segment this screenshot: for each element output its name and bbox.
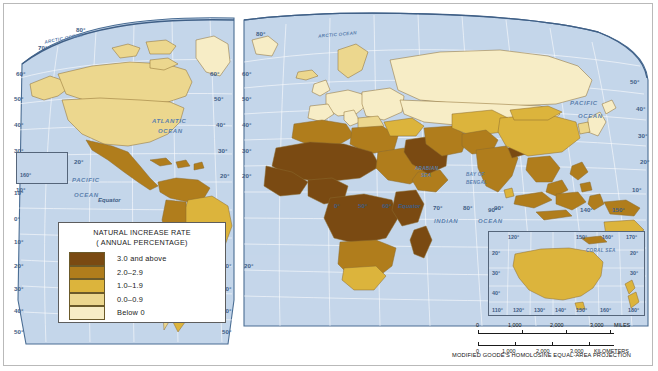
legend-row: Below 0	[65, 306, 219, 320]
scale-miles-tick-1000: 1,000	[508, 322, 522, 328]
scale-miles-tick-0: 0	[476, 322, 479, 328]
legend-swatch-3-and-above	[69, 252, 105, 266]
legend-label-3-and-above: 3.0 and above	[117, 254, 166, 263]
legend-class-rows: 3.0 and above 2.0–2.9 1.0–1.9 0.0–0.9 Be…	[65, 252, 219, 320]
legend-swatch-0-0-0-9	[69, 293, 105, 307]
legend-swatch-below-0	[69, 306, 105, 320]
legend-label-2-0-2-9: 2.0–2.9	[117, 268, 143, 277]
legend-label-1-0-1-9: 1.0–1.9	[117, 281, 143, 290]
map-legend: NATURAL INCREASE RATE ( ANNUAL PERCENTAG…	[58, 222, 226, 323]
legend-swatch-2-0-2-9	[69, 266, 105, 280]
legend-label-below-0: Below 0	[117, 308, 145, 317]
world-natural-increase-rate-map: ARCTIC OCEAN ARCTIC OCEAN ATLANTIC OCEAN…	[0, 0, 658, 371]
legend-row: 0.0–0.9	[65, 293, 219, 307]
legend-title-line2: ( ANNUAL PERCENTAGE)	[65, 238, 219, 248]
tasmania-landmass	[575, 302, 585, 310]
hawaii-inset-map	[16, 152, 68, 184]
projection-note: MODIFIED GOODE'S HOMOLOSINE EQUAL-AREA P…	[452, 352, 631, 358]
scale-miles-tick-3000: 3,000	[590, 322, 604, 328]
legend-row: 2.0–2.9	[65, 266, 219, 280]
australia-new-zealand-inset-map	[488, 231, 645, 316]
legend-row: 3.0 and above	[65, 252, 219, 266]
scale-miles-tick-2000: 2,000	[550, 322, 564, 328]
legend-row: 1.0–1.9	[65, 279, 219, 293]
scale-miles-unit: MILES	[614, 322, 630, 328]
legend-label-0-0-0-9: 0.0–0.9	[117, 295, 143, 304]
legend-swatch-1-0-1-9	[69, 279, 105, 293]
legend-title-line1: NATURAL INCREASE RATE	[65, 228, 219, 238]
